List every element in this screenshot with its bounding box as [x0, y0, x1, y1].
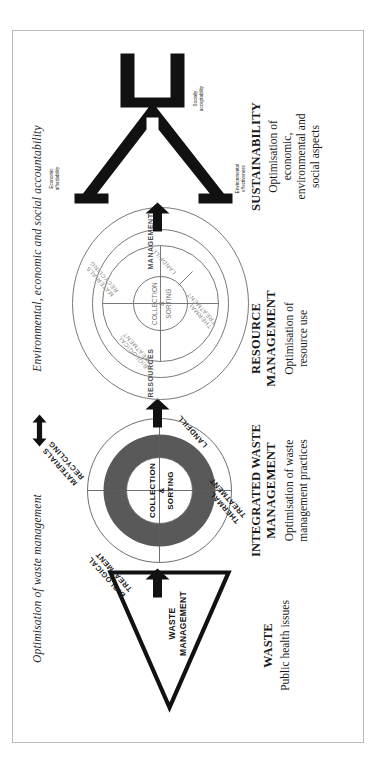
- rm-hub-line2: &: [157, 300, 164, 305]
- waste-triangle-label-line2: MANAGEMENT: [177, 583, 188, 663]
- caption-iwm-title-line1: INTEGRATED WASTE: [248, 415, 263, 565]
- caption-rm-subtitle-line1: Optimisation of: [281, 263, 295, 413]
- caption-integrated-waste-management: INTEGRATED WASTE MANAGEMENT Optimisation…: [248, 415, 309, 565]
- caption-rm-title-line2: MANAGEMENT: [263, 263, 278, 413]
- iwm-hub-line2: &: [156, 487, 165, 493]
- caption-sus-title: SUSTAINABILITY: [248, 61, 263, 251]
- sus-prong0-line2: effectiveness: [240, 149, 246, 207]
- figure-stage: Optimisation of waste management Environ…: [12, 30, 364, 743]
- sustainability-prong-label-environmental: Environmental effectiveness: [234, 149, 245, 207]
- sustainability-prong-label-social: Socially acceptability: [192, 69, 203, 127]
- caption-resource-management: RESOURCE MANAGEMENT Optimisation of reso…: [248, 263, 309, 413]
- header-right-label: Environmental, economic and social accou…: [30, 83, 42, 413]
- caption-rm-subtitle-line2: resource use: [295, 263, 309, 413]
- iwm-hub-line1: COLLECTION: [147, 463, 156, 518]
- header-left-label: Optimisation of waste management: [30, 453, 42, 703]
- iwm-hub-line3: SORTING: [165, 471, 174, 510]
- caption-waste-subtitle: Public health issues: [277, 565, 291, 725]
- sus-prong1-line1: Socially: [192, 69, 198, 127]
- page-frame: Optimisation of waste management Environ…: [12, 30, 364, 743]
- caption-sus-subtitle-line4: social aspects: [307, 61, 321, 251]
- caption-waste: WASTE Public health issues: [260, 565, 291, 725]
- sustainability-prong-label-economic: Economic affordability: [48, 149, 59, 207]
- double-headed-horizontal-arrow-icon: [28, 413, 50, 447]
- caption-sustainability: SUSTAINABILITY Optimisation of economic,…: [248, 61, 321, 251]
- caption-iwm-subtitle-line2: management practices: [295, 415, 309, 565]
- arrow-rm-to-sustainability: [144, 201, 170, 231]
- caption-rm-title-line1: RESOURCE: [248, 263, 263, 413]
- caption-iwm-subtitle-line1: Optimisation of waste: [281, 415, 295, 565]
- caption-sus-subtitle-line2: economic,: [279, 61, 293, 251]
- rm-hub-line3: SORTING: [164, 288, 171, 318]
- figure-header: Optimisation of waste management Environ…: [26, 30, 60, 743]
- rm-hub-line1: COLLECTION: [150, 281, 157, 324]
- caption-iwm-title-line2: MANAGEMENT: [263, 415, 278, 565]
- figure-page: Optimisation of waste management Environ…: [0, 0, 377, 777]
- integrated-waste-management-circle: COLLECTION & SORTING MATERIALS RECYCLING…: [74, 405, 244, 575]
- sus-prong0-line1: Environmental: [234, 149, 240, 207]
- sus-prong1-line2: acceptability: [198, 69, 204, 127]
- sustainability-symbol: Economic affordability Socially acceptab…: [68, 43, 238, 203]
- resource-management-circle: COLLECTION & SORTING RESOURCES MANAGEMEN…: [60, 203, 260, 403]
- caption-sus-subtitle-line1: Optimisation of: [265, 61, 279, 251]
- sus-prong2-line1: Economic: [48, 149, 54, 207]
- sus-prong2-line2: affordability: [54, 149, 60, 207]
- caption-waste-title: WASTE: [260, 565, 275, 725]
- caption-sus-subtitle-line3: environmental and: [293, 61, 307, 251]
